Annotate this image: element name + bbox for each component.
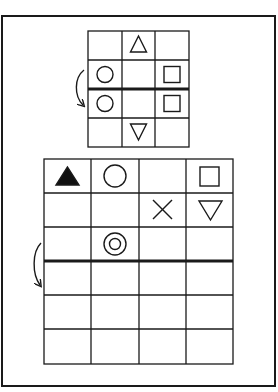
- puzzle-canvas: [0, 0, 278, 392]
- triangle-up-icon: [131, 36, 147, 52]
- curved-arrow-down-icon: [34, 243, 41, 285]
- circle-icon: [97, 67, 113, 83]
- question-grid: [34, 159, 233, 364]
- circle-icon: [104, 165, 126, 187]
- curved-arrow-down-icon: [76, 70, 84, 105]
- triangle-down-icon: [199, 201, 222, 220]
- square-icon: [200, 167, 219, 186]
- square-icon: [164, 96, 180, 112]
- double-circle-icon: [104, 233, 126, 255]
- triangle-down-icon: [131, 124, 147, 140]
- triangle-up-filled-icon: [56, 167, 79, 185]
- cross-icon: [153, 200, 172, 219]
- example-grid: [76, 31, 189, 147]
- circle-icon: [97, 96, 113, 112]
- square-icon: [164, 67, 180, 83]
